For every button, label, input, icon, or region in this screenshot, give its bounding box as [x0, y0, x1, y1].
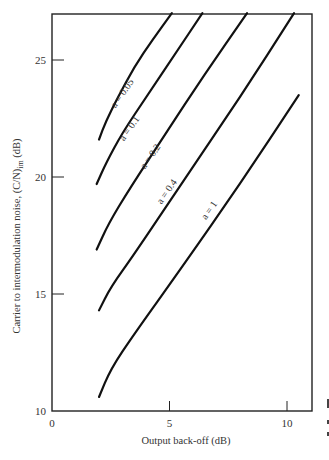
y-axis-title: Carrier to intermodulation noise, (C/N)i…: [11, 138, 25, 334]
y-axis-title-unit: (dB): [11, 138, 23, 160]
y-axis-ticks: 10152025: [35, 54, 64, 417]
y-axis-title-main: Carrier to intermodulation noise, (C/N): [11, 168, 23, 333]
y-tick-label: 10: [35, 405, 47, 417]
x-axis-title: Output back-off (dB): [141, 435, 231, 447]
x-axis-ticks: 0510: [49, 401, 293, 429]
x-tick-label: 5: [167, 417, 173, 429]
curve-a-0-4: [99, 13, 294, 310]
curve-label: a = 0.05: [108, 77, 136, 110]
chart: 0510 10152025 a = 0.05a = 0.1a = 0.2a = …: [0, 0, 329, 460]
curve-label: a = 0.1: [117, 114, 142, 143]
curve-labels: a = 0.05a = 0.1a = 0.2a = 0.4a = 1: [108, 77, 219, 222]
plot-frame: [52, 14, 312, 411]
y-tick-label: 15: [35, 288, 47, 300]
x-tick-label: 0: [49, 417, 55, 429]
curve-label: a = 0.2: [138, 142, 163, 171]
curves: [97, 13, 299, 397]
curve-a-1: [99, 95, 299, 397]
x-tick-label: 10: [282, 417, 294, 429]
y-tick-label: 20: [35, 171, 47, 183]
y-tick-label: 25: [35, 54, 47, 66]
